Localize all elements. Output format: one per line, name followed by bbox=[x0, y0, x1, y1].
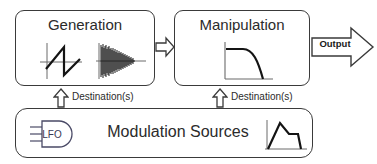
noise-burst-waveform-icon bbox=[94, 41, 148, 81]
synth-signal-flow-diagram: Generation bbox=[0, 0, 377, 164]
destination-label-manipulation: Destination(s) bbox=[231, 91, 293, 103]
envelope-icon bbox=[261, 118, 309, 152]
svg-text:LFO: LFO bbox=[42, 129, 62, 140]
modulation-sources-box[interactable]: Modulation Sources LFO bbox=[15, 108, 313, 158]
lowpass-filter-curve-icon bbox=[217, 39, 275, 83]
manipulation-title: Manipulation bbox=[175, 16, 309, 33]
generation-title: Generation bbox=[16, 16, 154, 33]
generation-stage-box[interactable]: Generation bbox=[15, 10, 155, 86]
manipulation-stage-box[interactable]: Manipulation bbox=[174, 10, 310, 86]
lfo-icon: LFO bbox=[29, 119, 81, 149]
modulation-sources-title: Modulation Sources bbox=[88, 122, 268, 142]
destination-label-generation: Destination(s) bbox=[72, 91, 134, 103]
output-label: Output bbox=[316, 38, 354, 49]
sawtooth-waveform-icon bbox=[38, 41, 84, 81]
destination-arrow-up-manipulation-icon bbox=[212, 88, 228, 108]
flow-arrow-right-icon bbox=[155, 36, 175, 58]
destination-arrow-up-generation-icon bbox=[53, 88, 69, 108]
